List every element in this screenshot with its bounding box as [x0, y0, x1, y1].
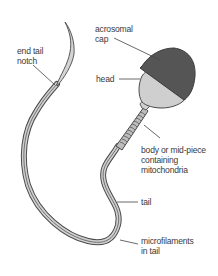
- label-line: mitochondria: [141, 165, 206, 175]
- sperm-diagram: acrosomal cap head end tail notch body o…: [0, 0, 218, 276]
- label-end-tail-notch: end tail notch: [17, 46, 43, 66]
- label-line: cap: [95, 34, 133, 44]
- label-line: tail: [141, 197, 151, 207]
- label-tail: tail: [141, 197, 151, 207]
- label-line: head: [96, 74, 114, 84]
- end-tail: [57, 22, 74, 86]
- label-head: head: [96, 74, 114, 84]
- label-line: notch: [17, 56, 43, 66]
- label-body-mid-piece: body or mid-piece containing mitochondri…: [141, 145, 206, 175]
- label-line: in tail: [141, 246, 194, 256]
- label-acrosomal-cap: acrosomal cap: [95, 24, 133, 44]
- tail: [24, 84, 119, 242]
- label-microfilaments: microfilaments in tail: [141, 236, 194, 256]
